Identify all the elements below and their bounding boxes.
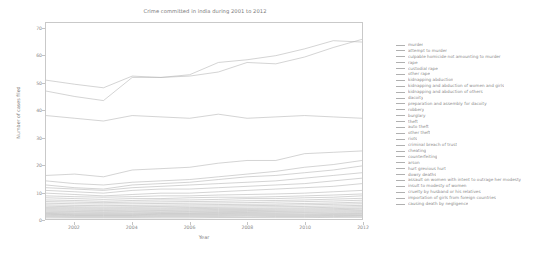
legend-swatch-icon — [396, 127, 405, 128]
y-axis-tick-label: 30 — [26, 135, 42, 140]
legend-swatch-icon — [396, 62, 405, 63]
series-line — [46, 160, 362, 185]
x-axis-tick-label: 2010 — [292, 225, 318, 230]
legend-swatch-icon — [396, 45, 405, 46]
y-axis-tick-label: 60 — [26, 53, 42, 58]
plot-area — [45, 22, 363, 220]
legend-swatch-icon — [396, 103, 405, 104]
legend-swatch-icon — [396, 115, 405, 116]
x-axis-tick-label: 2008 — [234, 225, 260, 230]
legend-swatch-icon — [396, 168, 405, 169]
x-axis-tick-label: 2006 — [177, 225, 203, 230]
series-line — [46, 173, 362, 191]
x-axis-tick-label: 2012 — [350, 225, 376, 230]
y-axis-tick-label: 20 — [26, 163, 42, 168]
legend-swatch-icon — [396, 145, 405, 146]
legend-swatch-icon — [396, 151, 405, 152]
y-axis-tick-label: 40 — [26, 108, 42, 113]
legend-swatch-icon — [396, 139, 405, 140]
legend-swatch-icon — [396, 204, 405, 205]
legend-swatch-icon — [396, 186, 405, 187]
y-axis-label: Number of cases filed — [16, 63, 21, 163]
legend-item-label: causing death by negligence — [408, 201, 468, 207]
legend-swatch-icon — [396, 98, 405, 99]
series-line — [46, 194, 362, 199]
legend-swatch-icon — [396, 121, 405, 122]
legend-swatch-icon — [396, 86, 405, 87]
legend-swatch-icon — [396, 109, 405, 110]
legend-swatch-icon — [396, 174, 405, 175]
legend-item-label: culpable homicide not amounting to murde… — [408, 54, 501, 60]
chart-title: Crime committed in india during 2001 to … — [45, 8, 365, 14]
legend-swatch-icon — [396, 80, 405, 81]
y-axis-tick-label: 10 — [26, 190, 42, 195]
y-axis-tick-label: 0 — [26, 218, 42, 223]
y-axis-tick-labels: 010203040506070 — [24, 22, 42, 220]
series-line — [46, 151, 362, 177]
legend-item[interactable]: causing death by negligence — [396, 201, 540, 207]
series-line — [46, 217, 362, 218]
legend-swatch-icon — [396, 92, 405, 93]
series-line — [46, 41, 362, 101]
series-line — [46, 114, 362, 121]
series-line — [46, 178, 362, 193]
series-line — [46, 190, 362, 197]
legend-swatch-icon — [396, 133, 405, 134]
legend-swatch-icon — [396, 198, 405, 199]
chart-figure: Crime committed in india during 2001 to … — [0, 0, 540, 254]
series-line — [46, 39, 362, 87]
x-axis-tick-label: 2002 — [61, 225, 87, 230]
chart-legend: murderattempt to murderculpable homicide… — [396, 42, 540, 207]
y-axis-tick-label: 70 — [26, 25, 42, 30]
legend-swatch-icon — [396, 50, 405, 51]
legend-swatch-icon — [396, 74, 405, 75]
legend-swatch-icon — [396, 156, 405, 157]
legend-swatch-icon — [396, 56, 405, 57]
x-axis-label: Year — [45, 234, 363, 240]
y-axis-tick-mark — [42, 220, 45, 221]
legend-swatch-icon — [396, 180, 405, 181]
y-axis-tick-label: 50 — [26, 80, 42, 85]
series-line — [46, 196, 362, 201]
legend-swatch-icon — [396, 68, 405, 69]
x-axis-tick-labels: 200220042006200820102012 — [45, 222, 363, 234]
series-lines — [46, 23, 362, 219]
legend-swatch-icon — [396, 192, 405, 193]
legend-swatch-icon — [396, 162, 405, 163]
x-axis-tick-label: 2004 — [119, 225, 145, 230]
